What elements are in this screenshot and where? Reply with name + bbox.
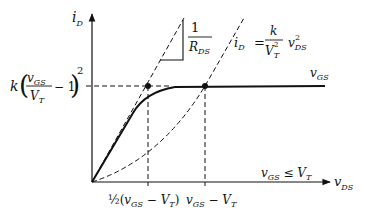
svg-text:k: k: [10, 78, 18, 94]
svg-text:1: 1: [191, 20, 199, 35]
svg-text:2: 2: [295, 33, 300, 42]
y-axis-label: iD: [72, 9, 83, 28]
x-tick-overdrive: vGS − VT: [186, 193, 237, 209]
parabola-equation: iD = k VT 2 vDS 2: [234, 24, 307, 60]
boundary-dot-2: [202, 83, 208, 89]
slope-label: 1 RDS: [188, 20, 212, 56]
svg-text:VT: VT: [30, 89, 45, 105]
saturation-level-label: k ( vGS VT − 1 ) 2: [10, 65, 83, 105]
svg-text:2: 2: [77, 65, 83, 76]
svg-text:iD: iD: [234, 35, 245, 52]
svg-text:2: 2: [274, 41, 278, 49]
svg-text:k: k: [270, 24, 277, 38]
svg-text:RDS: RDS: [188, 40, 210, 56]
x-axis-label: vDS: [334, 174, 354, 192]
curve-label: vGS: [310, 66, 329, 82]
x-tick-half-overdrive: ½(vGS − VT): [108, 193, 179, 209]
cutoff-label: vGS ≤ VT: [261, 166, 312, 182]
svg-text:=: =: [254, 35, 265, 50]
boundary-dot-1: [145, 83, 151, 89]
mosfet-characteristic-diagram: iD vDS k ( vGS VT − 1 ) 2 1 RDS iD = k V…: [0, 0, 366, 218]
parabola-dashed-curve: [92, 18, 244, 182]
svg-text:vGS: vGS: [27, 71, 46, 87]
